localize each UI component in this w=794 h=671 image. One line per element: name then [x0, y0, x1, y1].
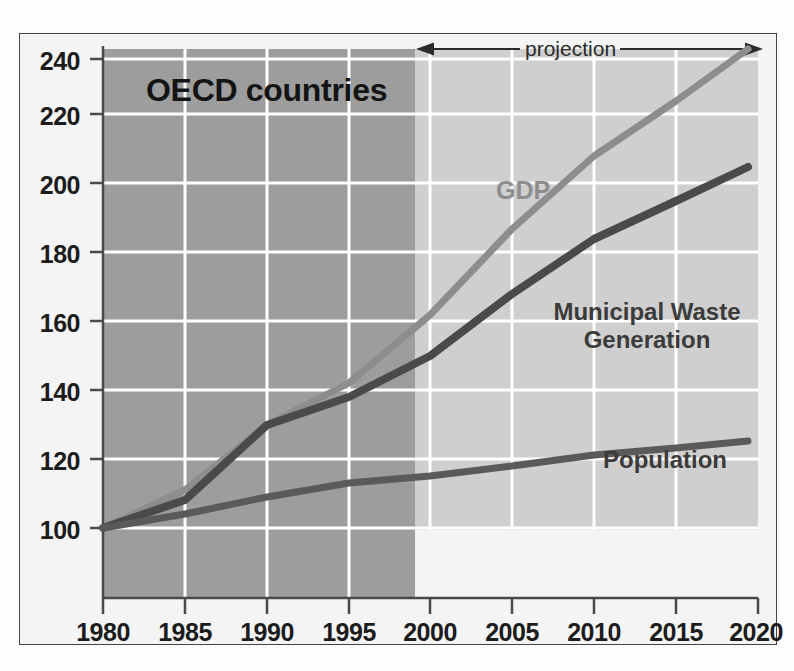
y-tick-label-180: 180: [18, 240, 80, 269]
chart-figure: 240 220 200 180 160 140 120 100 1980 198…: [0, 0, 794, 671]
series-label-municipal-waste-line1: Municipal Waste: [553, 298, 740, 325]
y-tick-label-100: 100: [18, 516, 80, 545]
x-tick-label-2000: 2000: [390, 618, 470, 647]
series-label-population: Population: [603, 446, 727, 474]
chart-title: OECD countries: [146, 72, 387, 109]
x-tick-label-1990: 1990: [227, 618, 307, 647]
x-axis-ticks: [103, 598, 758, 614]
x-tick-label-2005: 2005: [472, 618, 552, 647]
y-tick-label-120: 120: [18, 447, 80, 476]
y-tick-label-220: 220: [18, 102, 80, 131]
x-tick-label-1995: 1995: [309, 618, 389, 647]
y-tick-label-160: 160: [18, 309, 80, 338]
series-label-gdp: GDP: [496, 176, 550, 205]
x-tick-label-2020: 2020: [716, 618, 794, 647]
y-tick-label-240: 240: [18, 47, 80, 76]
x-tick-label-2015: 2015: [636, 618, 716, 647]
projection-annotation-label: projection: [525, 37, 616, 61]
series-label-municipal-waste: Municipal Waste Generation: [527, 298, 767, 353]
y-axis-ticks: [90, 59, 103, 528]
series-label-municipal-waste-line2: Generation: [584, 326, 711, 353]
x-tick-label-1980: 1980: [63, 618, 143, 647]
y-tick-label-200: 200: [18, 171, 80, 200]
x-tick-label-1985: 1985: [145, 618, 225, 647]
y-tick-label-140: 140: [18, 378, 80, 407]
x-tick-label-2010: 2010: [554, 618, 634, 647]
